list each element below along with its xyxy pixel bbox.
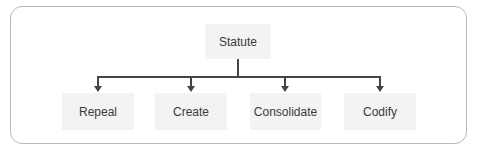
node-label: Create xyxy=(173,105,209,119)
node-label: Repeal xyxy=(79,105,117,119)
arrow-icon xyxy=(281,77,289,92)
node-codify: Codify xyxy=(344,93,416,130)
node-label: Codify xyxy=(363,105,397,119)
arrow-icon xyxy=(94,77,102,92)
node-label: Statute xyxy=(219,35,257,49)
node-repeal: Repeal xyxy=(62,93,134,130)
node-label: Consolidate xyxy=(254,105,317,119)
node-consolidate: Consolidate xyxy=(250,93,321,130)
node-create: Create xyxy=(155,93,227,130)
arrow-icon xyxy=(187,77,195,92)
node-root: Statute xyxy=(205,24,271,59)
arrow-icon xyxy=(376,77,384,92)
